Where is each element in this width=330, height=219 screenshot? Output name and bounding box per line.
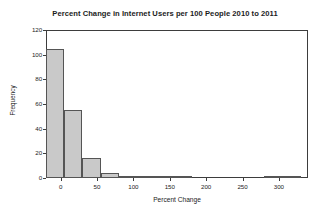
y-axis-label: Frequency xyxy=(9,71,16,131)
y-axis-tick-label: 60 xyxy=(16,100,42,107)
x-axis-tick-label: 250 xyxy=(231,183,255,190)
y-axis-tick-label: 20 xyxy=(16,149,42,156)
x-axis-tick-mark xyxy=(133,178,134,181)
y-axis-tick-mark xyxy=(43,153,46,154)
x-axis-tick-label: 300 xyxy=(267,183,291,190)
x-axis-tick-mark xyxy=(243,178,244,181)
x-axis-tick-mark xyxy=(61,178,62,181)
x-axis-tick-label: 0 xyxy=(49,183,73,190)
y-axis-tick-label: 80 xyxy=(16,75,42,82)
y-axis-tick-mark xyxy=(43,178,46,179)
axis-ticks-layer: 020406080100120050100150200250300 xyxy=(0,0,330,219)
x-axis-tick-mark xyxy=(206,178,207,181)
histogram-figure: Percent Change in Internet Users per 100… xyxy=(0,0,330,219)
y-axis-tick-label: 120 xyxy=(16,26,42,33)
y-axis-tick-mark xyxy=(43,55,46,56)
x-axis-tick-label: 50 xyxy=(85,183,109,190)
x-axis-tick-label: 100 xyxy=(121,183,145,190)
y-axis-tick-mark xyxy=(43,30,46,31)
x-axis-tick-mark xyxy=(279,178,280,181)
x-axis-tick-label: 200 xyxy=(194,183,218,190)
y-axis-tick-mark xyxy=(43,104,46,105)
y-axis-tick-mark xyxy=(43,79,46,80)
x-axis-tick-mark xyxy=(170,178,171,181)
y-axis-tick-mark xyxy=(43,129,46,130)
x-axis-tick-mark xyxy=(97,178,98,181)
y-axis-tick-label: 100 xyxy=(16,51,42,58)
x-axis-label: Percent Change xyxy=(46,196,308,203)
y-axis-tick-label: 40 xyxy=(16,125,42,132)
x-axis-tick-label: 150 xyxy=(158,183,182,190)
y-axis-tick-label: 0 xyxy=(16,174,42,181)
